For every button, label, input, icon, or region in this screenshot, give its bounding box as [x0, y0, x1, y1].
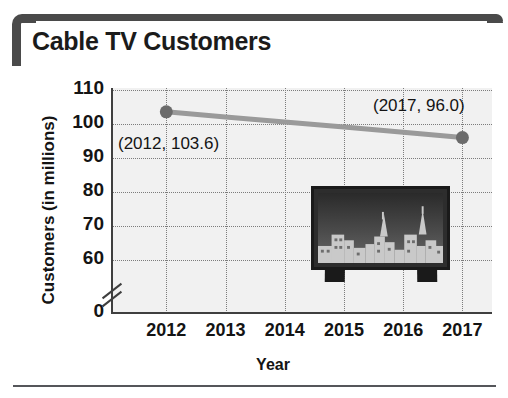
data-label-2017: (2017, 96.0): [373, 96, 465, 116]
chart-page: Cable TV Customers Customers (in million…: [0, 0, 508, 398]
data-series: [0, 0, 508, 398]
data-label-2012: (2012, 103.6): [118, 134, 219, 154]
data-point-2017: [456, 131, 469, 144]
data-point-2012: [160, 105, 173, 118]
footer-divider: [13, 385, 496, 387]
